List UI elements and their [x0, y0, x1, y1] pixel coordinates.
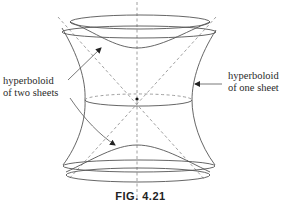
label-one-sheet-line2: of one sheet [228, 82, 279, 94]
hyperboloid-diagram [0, 0, 281, 202]
label-one-sheet: hyperboloid of one sheet [228, 70, 279, 94]
label-two-sheets: hyperboloid of two sheets [3, 75, 58, 99]
figure-caption: FIG. 4.21 [0, 190, 281, 202]
origin-point [135, 97, 138, 100]
one-sheet-top-rim [62, 26, 216, 38]
asymptote-line-right [68, 17, 216, 180]
one-sheet-right-wall [192, 30, 216, 165]
two-sheets-lower-rim [66, 168, 210, 182]
waist-front [85, 100, 192, 106]
one-sheet-left-wall [62, 28, 85, 165]
label-one-sheet-line1: hyperboloid [228, 70, 279, 82]
arrow-two-sheets-upper [68, 48, 101, 80]
label-two-sheets-line2: of two sheets [3, 87, 58, 99]
label-two-sheets-line1: hyperboloid [3, 75, 58, 87]
asymptote-line-left [58, 17, 205, 180]
two-sheets-upper-rim [70, 15, 210, 29]
